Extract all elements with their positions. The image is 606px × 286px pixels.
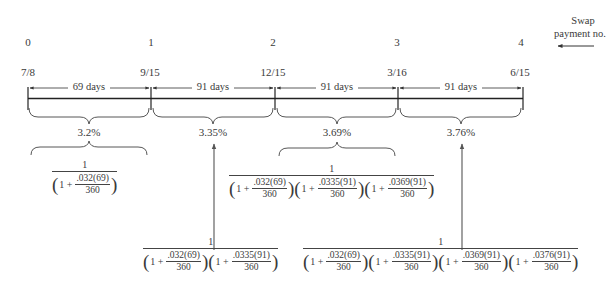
- denominator: (1 +.032(69)360) (1 +.0335(91)360): [143, 249, 278, 273]
- rate-fraction: .0335(91)360: [232, 250, 271, 273]
- rate-denominator: 360: [337, 262, 351, 273]
- rate-numerator: .032(69): [252, 177, 286, 188]
- discount-factor-3: 1 (1 +.032(69)360) (1 +.0335(91)360) (1 …: [229, 163, 434, 200]
- discount-factor-1: 1 (1 +.032(69)360): [52, 159, 117, 196]
- numerator: 1: [82, 159, 87, 171]
- numerator: 1: [438, 236, 443, 248]
- rate-numerator: .0369(91): [388, 177, 427, 188]
- rate-numerator: .0376(91): [532, 250, 571, 261]
- one-plus: 1 +: [515, 256, 531, 268]
- period-days: 91 days: [445, 81, 477, 92]
- payment-number-3: 3: [394, 36, 400, 48]
- rate-denominator: 360: [474, 262, 488, 273]
- rate-fraction: .032(69)360: [75, 173, 109, 196]
- rate-fraction: .0376(91)360: [532, 250, 571, 273]
- discount-factor-2: 1 (1 +.032(69)360) (1 +.0335(91)360): [143, 236, 278, 273]
- legend-line-2: payment no.: [554, 27, 606, 40]
- one-plus: 1 +: [375, 256, 391, 268]
- payment-number-4: 4: [518, 36, 524, 48]
- rate-fraction: .032(69)360: [326, 250, 360, 273]
- rate-denominator: 360: [544, 262, 558, 273]
- rate-numerator: .032(69): [75, 173, 109, 184]
- rate-denominator: 360: [400, 189, 414, 200]
- rate-numerator: .032(69): [326, 250, 360, 261]
- rate-numerator: .0335(91): [392, 250, 431, 261]
- one-plus: 1 +: [58, 179, 74, 191]
- factor-term: (1 +.0369(91)360): [364, 177, 434, 200]
- rate-denominator: 360: [263, 189, 277, 200]
- payment-number-1: 1: [148, 36, 154, 48]
- numerator: 1: [329, 163, 334, 175]
- rate-fraction: .032(69)360: [252, 177, 286, 200]
- factor-term: (1 +.0335(91)360): [208, 250, 278, 273]
- rate-denominator: 360: [404, 262, 418, 273]
- date-label: 9/15: [140, 66, 160, 78]
- date-label: 3/16: [387, 66, 407, 78]
- factor-term: (1 +.0369(91)360): [438, 250, 508, 273]
- paren-right: ): [111, 175, 117, 195]
- numerator: 1: [208, 236, 213, 248]
- rate-denominator: 360: [244, 262, 258, 273]
- rate-numerator: .0369(91): [462, 250, 501, 261]
- rate-fraction: .0369(91)360: [462, 250, 501, 273]
- payment-number-2: 2: [270, 36, 276, 48]
- period-days: 91 days: [197, 81, 229, 92]
- denominator: (1 +.032(69)360) (1 +.0335(91)360) (1 +.…: [229, 176, 434, 200]
- date-label: 12/15: [260, 66, 285, 78]
- payment-number-0: 0: [25, 36, 31, 48]
- factor-term: (1 +.0335(91)360): [368, 250, 438, 273]
- period-rate: 3.2%: [78, 126, 101, 138]
- period-rate: 3.69%: [323, 126, 351, 138]
- legend-label: Swap payment no.: [560, 14, 606, 40]
- period-days: 69 days: [73, 81, 105, 92]
- formula-brace-3: [279, 142, 395, 156]
- date-label: 7/8: [21, 66, 35, 78]
- one-plus: 1 +: [149, 256, 165, 268]
- rate-fraction: .0335(91)360: [392, 250, 431, 273]
- one-plus: 1 +: [371, 183, 387, 195]
- factor-term: (1 +.032(69)360): [303, 250, 368, 273]
- rate-fraction: .0335(91)360: [318, 177, 357, 200]
- formula-brace-1: [31, 141, 147, 155]
- factor-term: (1 +.0376(91)360): [508, 250, 578, 273]
- period-rate: 3.35%: [199, 126, 227, 138]
- period-braces: [29, 108, 521, 124]
- factor-term: (1 +.032(69)360): [143, 250, 208, 273]
- date-label: 6/15: [510, 66, 530, 78]
- period-days: 91 days: [321, 81, 353, 92]
- legend-line-1: Swap: [560, 14, 606, 27]
- one-plus: 1 +: [215, 256, 231, 268]
- discount-factor-4: 1 (1 +.032(69)360) (1 +.0335(91)360) (1 …: [303, 236, 578, 273]
- rate-denominator: 360: [330, 189, 344, 200]
- denominator: (1 +.032(69)360) (1 +.0335(91)360) (1 +.…: [303, 249, 578, 273]
- factor-term: (1 +.0335(91)360): [294, 177, 364, 200]
- one-plus: 1 +: [235, 183, 251, 195]
- rate-denominator: 360: [86, 185, 100, 196]
- rate-numerator: .0335(91): [318, 177, 357, 188]
- one-plus: 1 +: [445, 256, 461, 268]
- one-plus: 1 +: [309, 256, 325, 268]
- rate-numerator: .0335(91): [232, 250, 271, 261]
- one-plus: 1 +: [301, 183, 317, 195]
- rate-numerator: .032(69): [166, 250, 200, 261]
- rate-denominator: 360: [177, 262, 191, 273]
- factor-term: (1 +.032(69)360): [52, 173, 117, 196]
- rate-fraction: .0369(91)360: [388, 177, 427, 200]
- denominator: (1 +.032(69)360): [52, 172, 117, 196]
- period-rate: 3.76%: [447, 126, 475, 138]
- rate-fraction: .032(69)360: [166, 250, 200, 273]
- factor-term: (1 +.032(69)360): [229, 177, 294, 200]
